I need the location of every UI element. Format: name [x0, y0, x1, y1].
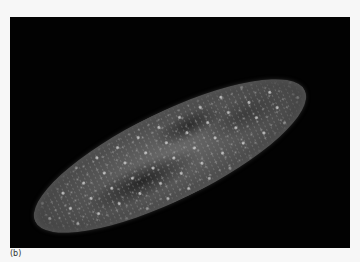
cell-granules: [16, 51, 324, 248]
figure-label: (b): [10, 249, 21, 258]
paramecium-cell: [16, 51, 324, 248]
micrograph-image: [10, 17, 350, 248]
